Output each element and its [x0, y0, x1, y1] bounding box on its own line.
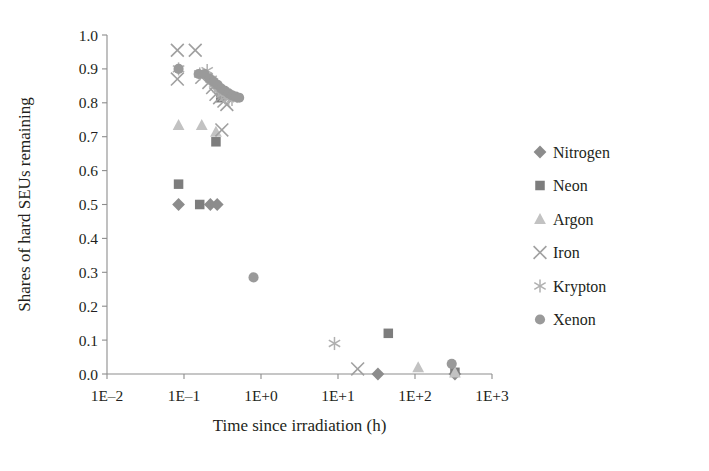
- series-nitrogen: [172, 198, 461, 380]
- legend-marker-neon: [535, 181, 545, 191]
- y-tick-label: 0.8: [79, 94, 99, 111]
- legend-marker-nitrogen: [534, 146, 547, 159]
- legend-label-iron: Iron: [553, 244, 580, 261]
- marker-square: [535, 181, 545, 191]
- y-tick-label: 0.9: [79, 60, 99, 77]
- data-point: [211, 198, 224, 211]
- legend-label-argon: Argon: [553, 211, 594, 229]
- marker-circle: [447, 359, 457, 369]
- marker-triangle: [173, 119, 185, 130]
- y-tick-label: 1.0: [79, 27, 99, 44]
- x-tick-label: 1E+0: [244, 387, 278, 404]
- legend-label-nitrogen: Nitrogen: [553, 144, 610, 162]
- legend: NitrogenNeonArgonIronKryptonXenon: [534, 144, 610, 328]
- marker-square: [195, 200, 205, 210]
- data-point: [211, 137, 221, 147]
- legend-label-xenon: Xenon: [553, 311, 596, 328]
- x-tick-label: 1E–1: [168, 387, 201, 404]
- legend-marker-iron: [534, 246, 547, 259]
- data-point: [329, 337, 340, 350]
- scatter-chart: 0.00.10.20.30.40.50.60.70.80.91.01E–21E–…: [0, 0, 709, 471]
- marker-circle: [535, 314, 545, 324]
- data-point: [447, 359, 457, 369]
- marker-triangle: [534, 213, 546, 224]
- y-tick-label: 0.1: [79, 332, 98, 349]
- marker-circle: [248, 272, 258, 282]
- legend-marker-krypton: [534, 279, 545, 292]
- data-point: [173, 119, 185, 130]
- x-tick-label: 1E+1: [321, 387, 355, 404]
- legend-label-krypton: Krypton: [553, 278, 606, 296]
- marker-diamond: [172, 198, 185, 211]
- marker-square: [174, 179, 184, 189]
- data-point: [234, 93, 244, 103]
- marker-square: [211, 137, 221, 147]
- data-point: [412, 361, 424, 372]
- x-tick-label: 1E–2: [91, 387, 124, 404]
- marker-square: [384, 329, 394, 339]
- y-tick-label: 0.3: [79, 264, 99, 281]
- marker-diamond: [372, 368, 385, 381]
- data-point: [196, 119, 208, 130]
- marker-diamond: [211, 198, 224, 211]
- data-point: [171, 73, 184, 86]
- series-iron: [171, 44, 364, 375]
- data-point: [172, 198, 185, 211]
- data-point: [195, 200, 205, 210]
- y-tick-label: 0.0: [79, 366, 99, 383]
- marker-circle: [234, 93, 244, 103]
- data-point: [173, 64, 183, 74]
- data-point: [372, 368, 385, 381]
- marker-diamond: [534, 146, 547, 159]
- x-tick-label: 1E+2: [398, 387, 432, 404]
- legend-label-neon: Neon: [553, 177, 588, 194]
- data-point: [189, 44, 202, 57]
- y-axis-title: Shares of hard SEUs remaining: [15, 97, 34, 312]
- y-tick-label: 0.6: [79, 162, 99, 179]
- series-argon: [173, 119, 461, 377]
- plot-area: 0.00.10.20.30.40.50.60.70.80.91.01E–21E–…: [0, 0, 709, 471]
- data-point: [384, 329, 394, 339]
- y-tick-label: 0.7: [79, 128, 99, 145]
- y-tick-label: 0.2: [79, 298, 98, 315]
- legend-marker-argon: [534, 213, 546, 224]
- data-point: [351, 363, 364, 376]
- legend-marker-xenon: [535, 314, 545, 324]
- marker-circle: [173, 64, 183, 74]
- x-axis-title: Time since irradiation (h): [213, 416, 387, 435]
- y-tick-label: 0.5: [79, 196, 99, 213]
- marker-triangle: [196, 119, 208, 130]
- data-point: [174, 179, 184, 189]
- data-point: [171, 44, 184, 57]
- x-tick-label: 1E+3: [475, 387, 509, 404]
- series-xenon: [173, 64, 456, 369]
- marker-triangle: [412, 361, 424, 372]
- data-point: [248, 272, 258, 282]
- y-tick-label: 0.4: [79, 230, 99, 247]
